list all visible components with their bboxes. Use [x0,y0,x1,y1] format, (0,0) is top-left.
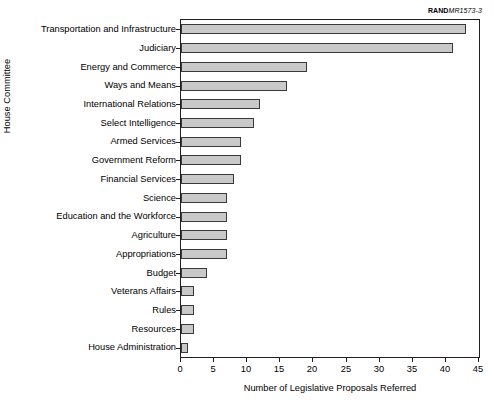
bar-row [181,189,479,208]
x-axis-tick [213,358,214,362]
y-axis-tick [176,67,180,68]
bar [181,99,260,109]
bar [181,193,227,203]
x-axis-tick-label: 20 [297,364,327,375]
bar-row [181,20,479,39]
y-axis-tick-label: Financial Services [101,174,176,184]
y-axis-tick-label: Government Reform [92,155,176,165]
x-axis-tick-label: 35 [397,364,427,375]
y-axis-tick-label: Armed Services [110,136,176,146]
bar-row [181,338,479,357]
bar-row [181,114,479,133]
x-axis-tick [312,358,313,362]
bar-row [181,263,479,282]
bar [181,286,194,296]
x-axis-tick-label: 45 [463,364,493,375]
x-axis-tick-label: 40 [430,364,460,375]
x-axis-tick [246,358,247,362]
bar [181,249,227,259]
y-axis-tick-label: International Relations [83,99,176,109]
y-axis-tick [176,179,180,180]
y-axis-tick-label: Veterans Affairs [111,286,176,296]
bar-row [181,226,479,245]
y-axis-tick [176,273,180,274]
bar [181,230,227,240]
bar-row [181,76,479,95]
y-axis-tick-label: Judiciary [139,43,176,53]
x-axis-title: Number of Legislative Proposals Referred [180,383,480,393]
y-axis-tick [176,291,180,292]
x-axis-tick [346,358,347,362]
x-axis-tick [445,358,446,362]
bar [181,324,194,334]
x-axis-tick-label: 25 [331,364,361,375]
x-axis-tick [279,358,280,362]
y-axis-tick [176,104,180,105]
y-axis-tick [176,217,180,218]
bar-row [181,151,479,170]
bar-row [181,57,479,76]
bar [181,43,453,53]
bar-row [181,132,479,151]
x-axis-tick [478,358,479,362]
bar [181,305,194,315]
y-axis-tick-label: Rules [152,305,176,315]
y-axis-tick [176,86,180,87]
y-axis-tick [176,235,180,236]
y-axis-tick-label: Resources [132,324,176,334]
x-axis-tick-label: 5 [198,364,228,375]
y-axis-tick [176,310,180,311]
bar [181,174,234,184]
bar-row [181,95,479,114]
x-axis-tick-label: 0 [165,364,195,375]
bar-row [181,282,479,301]
x-axis-tick [379,358,380,362]
bar [181,212,227,222]
y-axis-tick [176,254,180,255]
y-axis-tick [176,348,180,349]
y-axis-tick-label: Select Intelligence [101,118,176,128]
y-axis-tick-label: Appropriations [116,249,176,259]
y-axis-tick-label: Transportation and Infrastructure [41,24,176,34]
y-axis-tick-label: Energy and Commerce [80,62,176,72]
y-axis-tick-label: Education and the Workforce [56,211,176,221]
y-axis-tick-label: House Administration [88,342,176,352]
y-axis-tick [176,198,180,199]
bar-row [181,301,479,320]
x-axis-tick [180,358,181,362]
bar-chart-figure: RANDMR1573-3 Transportation and Infrastr… [0,0,494,404]
x-axis-tick [412,358,413,362]
y-axis-tick-label: Science [143,193,176,203]
bar-row [181,170,479,189]
y-axis-tick [176,29,180,30]
y-axis-tick-label: Agriculture [132,230,176,240]
bar [181,343,188,353]
bar [181,155,241,165]
rand-report-number: MR1573-3 [449,7,482,14]
bar [181,81,287,91]
bar [181,268,207,278]
rand-brand-label: RAND [428,7,449,14]
bar [181,62,307,72]
y-axis-tick-label: Budget [147,268,176,278]
y-axis-tick [176,142,180,143]
bar [181,24,466,34]
y-axis-tick [176,329,180,330]
y-axis-tick [176,48,180,49]
rand-source-tag: RANDMR1573-3 [428,7,482,14]
x-axis-tick-label: 30 [364,364,394,375]
bar [181,137,241,147]
bars-layer [181,20,479,357]
bar [181,118,254,128]
bar-row [181,245,479,264]
y-axis-tick-label: Ways and Means [105,80,176,90]
y-axis-tick [176,123,180,124]
x-axis-tick-label: 15 [264,364,294,375]
y-axis-tick [176,160,180,161]
x-axis-tick-label: 10 [231,364,261,375]
bar-row [181,320,479,339]
bar-row [181,39,479,58]
y-axis-title: House Committee [2,36,12,156]
bar-row [181,207,479,226]
